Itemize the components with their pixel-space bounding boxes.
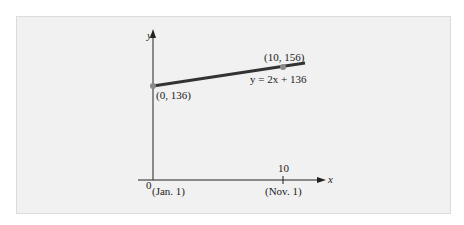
x-tick-10-sublabel: (Nov. 1) xyxy=(265,186,302,197)
y-axis-label: y xyxy=(147,30,152,41)
x-axis-arrow-icon xyxy=(317,177,326,183)
x-tick-0-label: 0 xyxy=(146,180,152,191)
equation-label: y = 2x + 136 xyxy=(250,74,306,85)
point-b-label: (10, 156) xyxy=(264,52,304,63)
point-10-156 xyxy=(280,64,286,70)
x-axis-label: x xyxy=(328,174,333,185)
x-tick-10-label: 10 xyxy=(278,163,289,174)
chart-plot xyxy=(0,0,464,225)
x-tick-0-sublabel: (Jan. 1) xyxy=(152,186,185,197)
point-a-label: (0, 136) xyxy=(156,90,191,101)
